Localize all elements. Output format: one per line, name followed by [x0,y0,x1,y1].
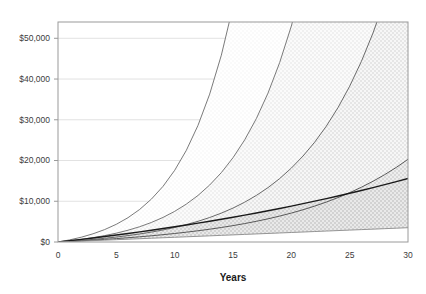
y-tick-label: $20,000 [19,155,50,165]
x-axis-title: Years [220,272,247,283]
x-tick-label: 0 [56,250,61,260]
x-tick-label: 5 [114,250,119,260]
x-tick-label: 10 [170,250,180,260]
chart-canvas: $0$10,000$20,000$30,000$40,000$50,000 05… [0,0,426,294]
x-tick-label: 30 [403,250,413,260]
y-tick-label: $0 [41,237,51,247]
growth-chart: $0$10,000$20,000$30,000$40,000$50,000 05… [0,0,426,294]
x-tick-label: 20 [287,250,297,260]
y-tick-label: $50,000 [19,33,50,43]
y-tick-label: $30,000 [19,115,50,125]
y-tick-label: $40,000 [19,74,50,84]
x-tick-label: 25 [345,250,355,260]
y-tick-label: $10,000 [19,196,50,206]
x-tick-label: 15 [228,250,238,260]
